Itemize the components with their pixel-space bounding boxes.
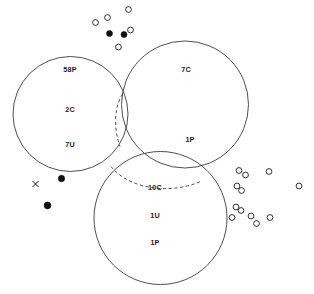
right-circle: [122, 41, 249, 168]
right-marker-cluster: [229, 168, 302, 227]
marker-filled-4: [121, 32, 127, 38]
marker-open-11: [267, 215, 273, 221]
marker-open-5: [128, 27, 134, 33]
top-marker-cluster: [93, 7, 134, 50]
marker-open-1: [105, 15, 111, 21]
bottom-circle: [94, 152, 227, 285]
marker-open-1: [243, 172, 249, 178]
marker-open-8: [229, 215, 235, 221]
marker-open-0: [236, 168, 242, 174]
region-label-lbl-1p-bottom: 1P: [150, 238, 159, 247]
region-label-lbl-7c: 7C: [181, 65, 191, 74]
region-label-lbl-1u: 1U: [150, 211, 160, 220]
left-marker-cluster: [33, 175, 65, 209]
region-label-lbl-2c: 2C: [65, 105, 75, 114]
marker-cross-0: [33, 181, 39, 187]
region-label-lbl-58p: 58P: [63, 65, 76, 74]
marker-open-0: [126, 7, 132, 13]
region-labels-group: 58P2C7U7C1P10C1U1P: [63, 65, 194, 247]
scatter-markers-group: [33, 7, 302, 227]
marker-filled-3: [107, 31, 113, 37]
region-label-lbl-10c: 10C: [148, 183, 162, 192]
marker-open-2: [93, 20, 99, 26]
marker-open-7: [238, 208, 244, 214]
venn-scatter-figure: 58P2C7U7C1P10C1U1P: [0, 0, 314, 294]
marker-open-10: [254, 221, 260, 227]
marker-open-5: [296, 183, 302, 189]
marker-filled-2: [44, 202, 51, 209]
figure-canvas: 58P2C7U7C1P10C1U1P: [0, 0, 314, 294]
region-label-lbl-1p-right: 1P: [185, 135, 194, 144]
marker-filled-1: [58, 175, 64, 181]
marker-open-3: [234, 183, 240, 189]
marker-open-2: [266, 169, 272, 175]
region-label-lbl-7u: 7U: [65, 140, 75, 149]
marker-open-6: [116, 44, 122, 50]
circles-group: [13, 41, 249, 285]
marker-open-9: [248, 213, 254, 219]
marker-open-4: [239, 188, 245, 194]
